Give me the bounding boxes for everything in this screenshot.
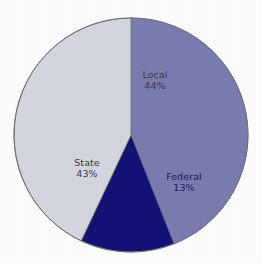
- slice-label-federal: Federal: [166, 171, 202, 182]
- slice-label-state: State: [74, 157, 100, 168]
- pie-slices: [14, 18, 248, 252]
- pie-chart-svg: Local 44% Federal 13% State 43%: [0, 0, 262, 263]
- slice-label-local: Local: [142, 69, 167, 80]
- pie-chart-figure: Local 44% Federal 13% State 43%: [0, 0, 262, 263]
- slice-value-federal: 13%: [173, 182, 194, 193]
- slice-value-local: 44%: [144, 80, 165, 91]
- slice-value-state: 43%: [76, 168, 97, 179]
